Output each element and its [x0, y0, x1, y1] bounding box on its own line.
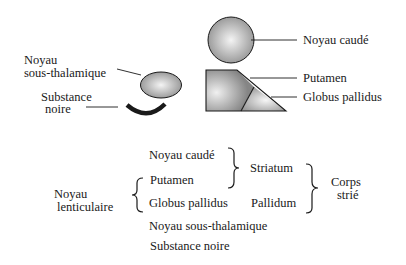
corps-strie-brace	[306, 164, 318, 213]
putamen-label: Putamen	[303, 71, 347, 85]
corps-strie-label-2: strié	[337, 188, 359, 202]
noyau-sous-thalamique-label-2: sous-thalamique	[24, 66, 106, 80]
noyau-caude-shape	[208, 17, 297, 63]
noyau-caude-label: Noyau caudé	[303, 33, 369, 47]
pallidum-label: Pallidum	[251, 196, 296, 210]
striatum-label: Striatum	[250, 161, 293, 175]
class-noyau-caude: Noyau caudé	[149, 148, 215, 162]
substance-noire-label-2: noire	[45, 102, 71, 116]
class-globus-pallidus: Globus pallidus	[149, 196, 228, 210]
noyau-lenticulaire-brace	[132, 178, 143, 212]
class-putamen: Putamen	[150, 173, 194, 187]
substance-noire-shape	[86, 104, 165, 113]
class-noyau-sous-thalamique: Noyau sous-thalamique	[149, 219, 268, 233]
noyau-lenticulaire-label-1: Noyau	[54, 187, 88, 201]
globus-pallidus-label: Globus pallidus	[303, 90, 382, 104]
noyau-lenticulaire-label-2: lenticulaire	[57, 200, 114, 214]
basal-ganglia-diagram: Noyau caudé Putamen Globus pallidus Noya…	[0, 0, 406, 265]
noyau-sous-thalamique-label-1: Noyau	[24, 53, 58, 67]
noyau-sous-thalamique-shape	[117, 69, 182, 98]
class-substance-noire: Substance noire	[150, 239, 230, 253]
striatum-brace	[228, 148, 239, 188]
corps-strie-label-1: Corps	[331, 175, 361, 189]
